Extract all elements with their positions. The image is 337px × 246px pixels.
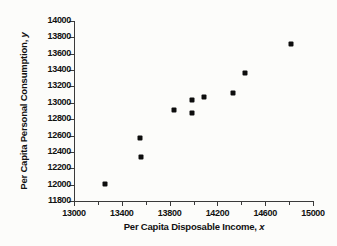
data-point xyxy=(230,91,235,96)
data-point xyxy=(103,181,108,186)
y-tick-label: 12800 xyxy=(47,113,71,123)
x-tick-mark xyxy=(194,201,195,205)
data-point xyxy=(137,136,142,141)
x-axis-title-text: Per Capita Disposable Income, xyxy=(124,221,260,232)
y-tick-label: 13800 xyxy=(47,31,71,41)
x-tick-mark xyxy=(265,201,266,206)
x-tick-mark xyxy=(122,201,123,206)
x-tick-label: 13800 xyxy=(158,208,182,218)
x-tick-mark xyxy=(74,201,75,206)
x-axis-variable: x xyxy=(259,221,264,232)
data-point xyxy=(289,41,294,46)
x-tick-mark xyxy=(289,201,290,205)
x-tick-label: 14200 xyxy=(206,208,230,218)
y-tick-label: 13600 xyxy=(47,48,71,58)
y-tick-label: 11800 xyxy=(48,195,71,205)
x-axis-title: Per Capita Disposable Income, x xyxy=(74,221,314,232)
y-tick-label: 12200 xyxy=(47,162,71,172)
y-axis-line xyxy=(74,21,75,202)
x-tick-label: 13400 xyxy=(110,208,134,218)
x-tick-mark xyxy=(98,201,99,205)
y-tick-label: 13000 xyxy=(47,97,71,107)
y-axis-variable: y xyxy=(18,32,29,37)
x-tick-mark xyxy=(241,201,242,205)
x-tick-mark xyxy=(146,201,147,205)
x-tick-label: 15000 xyxy=(301,208,325,218)
y-axis-title: Per Capita Personal Consumption, y xyxy=(18,21,32,201)
x-tick-label: 13000 xyxy=(62,208,86,218)
y-tick-label: 12000 xyxy=(47,179,71,189)
data-point xyxy=(190,98,195,103)
y-tick-label: 12400 xyxy=(47,146,71,156)
x-tick-mark xyxy=(170,201,171,206)
data-point xyxy=(202,95,207,100)
x-tick-mark xyxy=(217,201,218,206)
data-point xyxy=(242,70,247,75)
data-point xyxy=(190,111,195,116)
y-tick-label: 12600 xyxy=(47,130,71,140)
y-tick-label: 14000 xyxy=(47,15,71,25)
x-tick-mark xyxy=(313,201,314,206)
scatter-chart-figure: 1180012000122001240012600128001300013200… xyxy=(0,0,337,246)
x-tick-label: 14600 xyxy=(253,208,277,218)
y-axis-title-text: Per Capita Personal Consumption, xyxy=(18,37,29,189)
y-tick-label: 13400 xyxy=(47,64,71,74)
data-point xyxy=(138,154,143,159)
y-tick-label: 13200 xyxy=(47,80,71,90)
data-point xyxy=(172,108,177,113)
